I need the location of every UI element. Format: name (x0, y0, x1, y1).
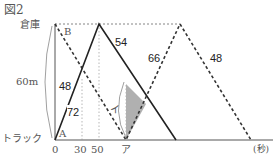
label-54: 54 (115, 36, 127, 48)
point-b-label: B (64, 26, 71, 37)
distance-label: 60m (16, 76, 39, 87)
x-tick-a: ア (121, 144, 131, 155)
truck-b-line (55, 24, 251, 140)
label-48-last: 48 (210, 52, 222, 64)
truck-label: トラック (2, 133, 42, 144)
x-unit-label: (秒) (253, 143, 269, 154)
angle-label: イ (110, 104, 120, 115)
x-tick-30: 30 (74, 144, 87, 155)
figure-title: 図2 (4, 3, 24, 17)
x-tick-0: 0 (52, 144, 58, 155)
x-tick-50: 50 (91, 144, 104, 155)
shaded-region (126, 84, 146, 140)
label-48-first: 48 (59, 80, 71, 92)
diagram: 図2 60m イ 倉庫 トラック A B 72 48 54 66 48 0 30… (0, 0, 280, 165)
point-a-label: A (58, 128, 67, 139)
distance-brace (45, 26, 52, 138)
label-72: 72 (67, 106, 79, 118)
label-66: 66 (148, 52, 160, 64)
warehouse-label: 倉庫 (20, 18, 40, 30)
